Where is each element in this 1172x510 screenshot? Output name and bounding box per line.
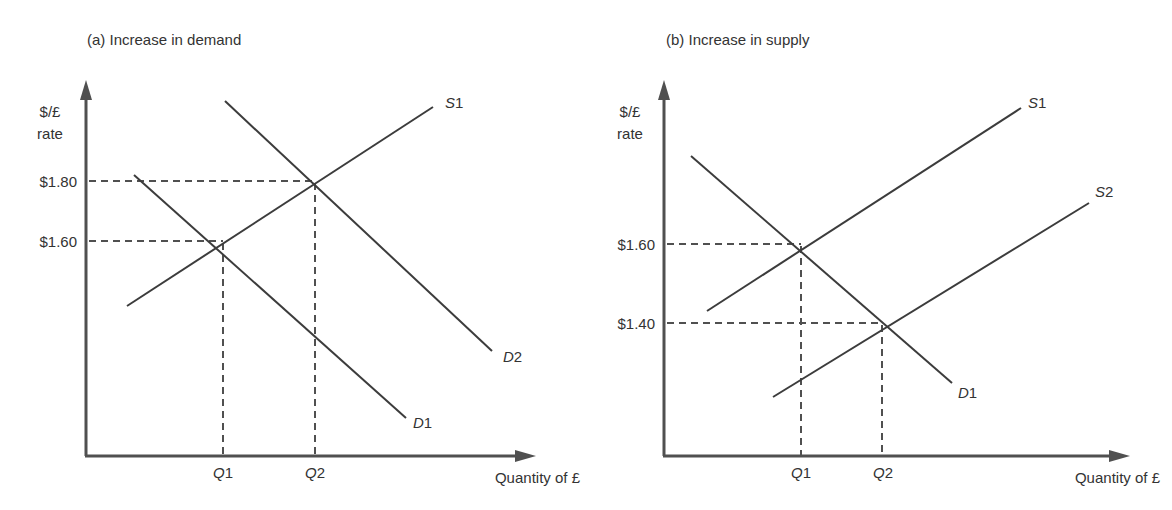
panel-a-xtick-q2: Q2 xyxy=(305,464,325,481)
panel-a-title: (a) Increase in demand xyxy=(87,31,241,48)
panel-a-increase-in-demand: (a) Increase in demand $/£ rate $1.80 $1… xyxy=(37,31,581,486)
panel-a-label-d1: D1 xyxy=(413,414,432,431)
panel-a-label-s1: S1 xyxy=(445,94,463,111)
panel-b-label-d1: D1 xyxy=(958,384,977,401)
panel-a-ytick-1-60: $1.60 xyxy=(39,233,77,250)
chart-canvas: (a) Increase in demand $/£ rate $1.80 $1… xyxy=(0,0,1172,510)
panel-b-ytick-1-60: $1.60 xyxy=(617,236,655,253)
panel-a-y-label-line2: rate xyxy=(37,125,63,142)
panel-a-ytick-1-80: $1.80 xyxy=(39,173,77,190)
panel-a-label-d2: D2 xyxy=(503,348,522,365)
panel-b-xtick-q1: Q1 xyxy=(791,464,811,481)
panel-a-y-label-line1: $/£ xyxy=(40,103,62,120)
panel-b-supply-s1 xyxy=(707,108,1021,311)
panel-b-label-s1: S1 xyxy=(1028,94,1046,111)
panel-b-y-label-line1: $/£ xyxy=(620,103,642,120)
panel-b-x-label: Quantity of £ xyxy=(1075,469,1161,486)
panel-a-supply-s1 xyxy=(127,107,433,306)
panel-b-label-s2: S2 xyxy=(1095,183,1113,200)
panel-b-y-label-line2: rate xyxy=(617,125,643,142)
panel-a-x-label: Quantity of £ xyxy=(495,469,581,486)
panel-a-demand-d1 xyxy=(134,175,406,418)
panel-b-supply-s2 xyxy=(773,203,1089,397)
panel-b-xtick-q2: Q2 xyxy=(873,464,893,481)
panel-a-x-axis-arrow-icon xyxy=(515,450,536,462)
panel-a-xtick-q1: Q1 xyxy=(213,464,233,481)
panel-a-demand-d2 xyxy=(225,101,492,351)
panel-b-y-axis-arrow-icon xyxy=(658,80,670,100)
panel-a-y-axis-arrow-icon xyxy=(80,80,92,100)
panel-b-demand-d1 xyxy=(691,156,952,383)
panel-b-x-axis-arrow-icon xyxy=(1109,450,1130,462)
panel-b-increase-in-supply: (b) Increase in supply $/£ rate $1.60 $1… xyxy=(617,31,1161,486)
panel-b-ytick-1-40: $1.40 xyxy=(617,315,655,332)
panel-b-title: (b) Increase in supply xyxy=(666,31,810,48)
